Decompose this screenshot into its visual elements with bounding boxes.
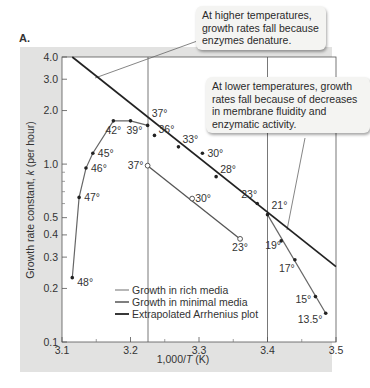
data-point-rich-media xyxy=(324,311,328,315)
data-point-label: 15° xyxy=(295,293,311,305)
y-tick-label: 0.5 xyxy=(43,211,58,223)
y-tick-label: 0.3 xyxy=(43,251,58,263)
data-point-rich-media xyxy=(214,175,218,179)
data-point-label: 30° xyxy=(207,147,223,159)
y-tick-label: 2.0 xyxy=(43,104,58,116)
data-point-label: 48° xyxy=(77,276,93,288)
legend-label-arrhenius: Extrapolated Arrhenius plot xyxy=(132,308,258,320)
data-point-label: 17° xyxy=(279,262,295,274)
data-point-label: 33° xyxy=(182,133,198,145)
y-tick-label: 4.0 xyxy=(43,51,58,63)
data-point-rich-media xyxy=(146,124,150,128)
data-point-minimal-media xyxy=(145,163,150,168)
data-point-rich-media xyxy=(153,134,157,138)
data-point-label: 23° xyxy=(241,188,257,200)
data-point-label: 46° xyxy=(91,162,107,174)
legend-label-minimal: Growth in minimal media xyxy=(132,296,248,308)
y-tick-label: 0.4 xyxy=(43,228,58,240)
x-tick-label: 3.4 xyxy=(260,344,275,356)
data-point-label: 39° xyxy=(127,124,143,136)
x-tick-label: 3.1 xyxy=(55,344,70,356)
x-axis-title: 1,000/T (K) xyxy=(157,353,210,365)
data-point-label: 28° xyxy=(220,163,236,175)
data-point-label: 19° xyxy=(265,239,281,251)
data-point-rich-media xyxy=(77,196,81,200)
data-point-label: 42° xyxy=(105,124,121,136)
data-point-rich-media xyxy=(129,119,133,123)
callout-high-temperature: At higher temperatures, growth rates fal… xyxy=(196,6,326,50)
data-point-rich-media xyxy=(112,119,116,123)
y-tick-label: 3.0 xyxy=(43,73,58,85)
data-point-rich-media xyxy=(201,152,205,156)
data-point-label: 45° xyxy=(98,147,114,159)
data-point-rich-media xyxy=(314,295,318,299)
x-tick-label: 3.2 xyxy=(123,344,138,356)
data-point-label: 13.5° xyxy=(298,313,323,325)
data-point-label: 23° xyxy=(232,241,248,253)
panel-label: A. xyxy=(19,32,30,44)
data-point-rich-media xyxy=(91,152,95,156)
data-point-label: 37° xyxy=(152,107,168,119)
data-point-label: 37° xyxy=(128,159,144,171)
y-axis-title: Growth rate constant, k (per hour) xyxy=(24,121,36,279)
y-tick-label: 1.0 xyxy=(43,158,58,170)
data-point-minimal-media xyxy=(190,196,195,201)
data-point-rich-media xyxy=(70,276,74,280)
data-point-label: 36° xyxy=(158,123,174,135)
x-tick-label: 3.5 xyxy=(329,344,344,356)
legend-label-rich: Growth in rich media xyxy=(132,284,228,296)
y-tick-label: 0.2 xyxy=(43,282,58,294)
data-point-label: 47° xyxy=(84,191,100,203)
data-point-label: 30° xyxy=(195,192,211,204)
data-point-label: 21° xyxy=(272,199,288,211)
data-point-rich-media xyxy=(177,145,181,149)
callout-low-temperature: At lower temperatures, growth rates fall… xyxy=(206,77,370,133)
data-point-rich-media xyxy=(84,166,88,170)
